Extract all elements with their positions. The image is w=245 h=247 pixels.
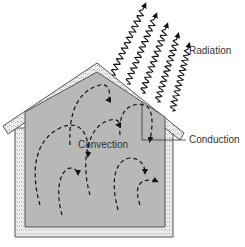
house xyxy=(3,63,184,237)
radiation-ray xyxy=(112,5,146,75)
radiation-label: Radiation xyxy=(189,45,231,56)
radiation-ray xyxy=(171,45,190,111)
convection-label: Convection xyxy=(78,139,128,150)
radiation-ray xyxy=(141,25,167,93)
conduction-label: Conduction xyxy=(189,134,240,145)
radiation-ray xyxy=(126,15,156,84)
heat-transfer-diagram: Radiation Conduction Convection xyxy=(0,0,245,247)
